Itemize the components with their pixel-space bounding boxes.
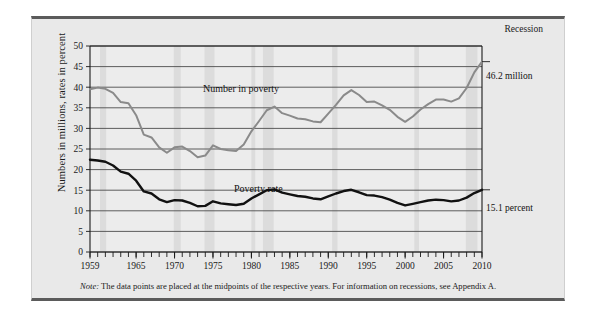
- svg-text:1959: 1959: [81, 261, 100, 271]
- note-text: The data points are placed at the midpoi…: [99, 281, 496, 291]
- svg-text:10: 10: [74, 206, 84, 216]
- svg-text:1965: 1965: [127, 261, 146, 271]
- series-label-poverty-rate: Poverty rate: [234, 183, 283, 194]
- note-prefix: Note:: [80, 281, 99, 291]
- svg-text:1980: 1980: [242, 261, 261, 271]
- svg-text:15: 15: [74, 186, 84, 196]
- poverty-rate-callout: 15.1 percent: [486, 203, 533, 213]
- svg-text:0: 0: [78, 247, 83, 257]
- svg-text:1995: 1995: [357, 261, 376, 271]
- svg-text:1990: 1990: [319, 261, 338, 271]
- poverty-line-chart: 0510152025303540455019591965197019751980…: [32, 19, 566, 304]
- svg-text:20: 20: [74, 165, 84, 175]
- svg-text:50: 50: [74, 41, 84, 51]
- svg-text:1985: 1985: [280, 261, 299, 271]
- figure-panel: Numbers in millions, rates in percent Re…: [31, 16, 565, 301]
- svg-text:1975: 1975: [203, 261, 222, 271]
- svg-text:2000: 2000: [396, 261, 415, 271]
- svg-text:1970: 1970: [165, 261, 184, 271]
- svg-text:45: 45: [74, 62, 84, 72]
- series-label-number-in-poverty: Number in poverty: [203, 83, 279, 94]
- svg-text:2005: 2005: [434, 261, 453, 271]
- svg-text:40: 40: [74, 83, 84, 93]
- figure-note: Note: The data points are placed at the …: [80, 281, 496, 291]
- plot-area: 0510152025303540455019591965197019751980…: [32, 19, 566, 304]
- svg-text:30: 30: [74, 124, 84, 134]
- svg-text:5: 5: [78, 227, 83, 237]
- number-in-poverty-callout: 46.2 million: [486, 71, 532, 81]
- svg-text:35: 35: [74, 103, 84, 113]
- svg-text:25: 25: [74, 144, 84, 154]
- svg-text:2010: 2010: [473, 261, 492, 271]
